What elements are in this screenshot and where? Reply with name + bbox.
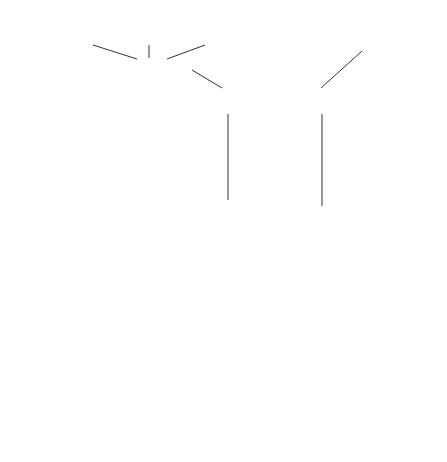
line-name-employee bbox=[192, 70, 222, 88]
line-fname-name bbox=[93, 45, 137, 59]
er-diagram bbox=[0, 0, 447, 462]
connectors bbox=[93, 45, 362, 206]
line-employeeid-employee bbox=[321, 51, 362, 88]
line-lname-name bbox=[167, 45, 205, 59]
